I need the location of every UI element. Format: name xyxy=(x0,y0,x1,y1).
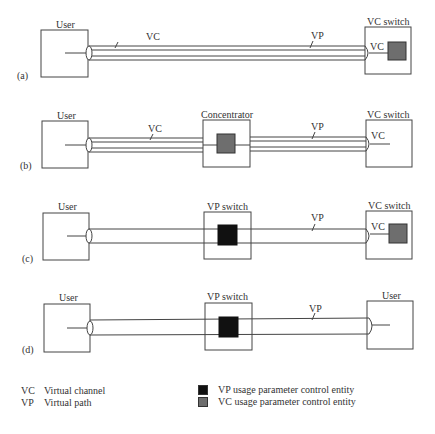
panel-d xyxy=(44,301,413,352)
vp-switch-label-d: VP switch xyxy=(207,291,248,302)
legend-abbreviations: VC Virtual channel VP Virtual path xyxy=(21,385,105,409)
vc-pipe-label-b: VC xyxy=(148,123,162,134)
vp-pipe-label-b: VP xyxy=(311,121,324,132)
legend-text: VP usage parameter control entity xyxy=(218,384,354,396)
legend-text: VC usage parameter control entity xyxy=(218,396,356,408)
vp-switch-label-c: VP switch xyxy=(207,201,248,212)
vp-upc-entity-c xyxy=(218,225,237,245)
vc-switch-label-c: VC switch xyxy=(368,200,411,211)
vc-switch-label-a: VC switch xyxy=(367,16,410,27)
legend-row-vp: VP Virtual path xyxy=(21,397,105,409)
vp-upc-swatch-icon xyxy=(198,385,208,395)
vp-pipe-label-c: VP xyxy=(311,212,324,223)
legend-abbr: VC xyxy=(21,385,44,397)
panel-label-c: (c) xyxy=(22,253,33,265)
vp-pipe-label-a: VP xyxy=(311,30,324,41)
panel-label-a: (a) xyxy=(17,70,28,82)
vc-upc-entity-a xyxy=(388,42,406,60)
vp-pipe-label-d: VP xyxy=(309,303,322,314)
vc-switch-label-b: VC switch xyxy=(367,109,410,120)
diagram-canvas: User VC VP VC switch VC (a) User VC Conc… xyxy=(0,0,435,434)
user-label-d-right: User xyxy=(382,290,402,301)
legend-row-vp-upc: VP usage parameter control entity xyxy=(198,384,356,396)
legend-entities: VP usage parameter control entity VC usa… xyxy=(198,384,356,408)
panel-label-d: (d) xyxy=(22,344,34,356)
vp-upc-entity-d xyxy=(219,317,238,337)
vc-upc-entity-c xyxy=(389,224,407,243)
panel-a xyxy=(41,27,411,77)
legend-text: Virtual channel xyxy=(44,385,105,397)
concentrator-label: Concentrator xyxy=(201,109,254,120)
vc-inner-label-b: VC xyxy=(371,130,385,141)
legend-row-vc-upc: VC usage parameter control entity xyxy=(198,396,356,408)
user-label-b: User xyxy=(57,110,77,121)
vc-inner-label-c: VC xyxy=(371,221,385,232)
panel-label-b: (b) xyxy=(20,160,32,172)
user-label-c: User xyxy=(58,201,78,212)
panel-b xyxy=(42,120,412,168)
legend-row-vc: VC Virtual channel xyxy=(21,385,105,397)
user-label-d-left: User xyxy=(59,292,79,303)
panel-c xyxy=(43,211,412,260)
legend-abbr: VP xyxy=(21,397,44,409)
vc-upc-entity-b xyxy=(217,134,235,153)
user-label-a: User xyxy=(56,19,76,30)
vc-pipe-label-a: VC xyxy=(146,31,160,42)
legend-text: Virtual path xyxy=(44,397,91,409)
vc-upc-swatch-icon xyxy=(198,397,208,407)
vc-inner-label-a: VC xyxy=(370,41,384,52)
